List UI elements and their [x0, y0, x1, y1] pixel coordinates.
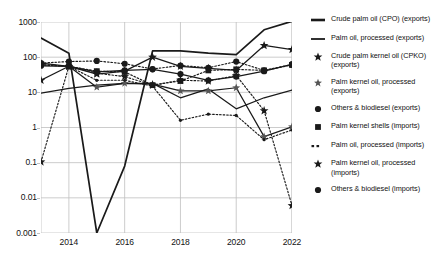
- data-point: [41, 76, 45, 84]
- legend-marker-circle-icon: [310, 185, 326, 195]
- data-point: [207, 113, 210, 116]
- x-tick-label: 2018: [171, 238, 190, 247]
- x-tick-label: 2022: [283, 238, 302, 247]
- data-point: [123, 79, 126, 82]
- legend-marker-dotted-dashes-icon: [310, 141, 326, 151]
- data-point: [149, 66, 155, 72]
- legend-label: Palm oil, processed (exports): [331, 33, 424, 42]
- data-point: [122, 61, 128, 67]
- y-tick-label: 0.1: [25, 158, 37, 167]
- data-point: [177, 62, 183, 68]
- legend-marker-line-thick-icon: [310, 15, 326, 25]
- y-tick-mark: [37, 57, 40, 58]
- legend-item[interactable]: Palm oil, processed (imports): [310, 140, 438, 151]
- chart-canvas: [41, 22, 292, 233]
- legend-item[interactable]: Palm kernel shells (imports): [310, 121, 438, 132]
- data-point: [94, 58, 100, 64]
- data-point: [204, 87, 212, 95]
- legend-label: Palm kernel oil, processed (exports): [331, 77, 438, 95]
- legend-item[interactable]: Others & biodiesel (imports): [310, 184, 438, 195]
- series-5: [41, 62, 292, 88]
- series-7: [41, 62, 292, 210]
- data-point: [263, 138, 266, 141]
- data-point: [148, 53, 157, 61]
- legend-label: Crude palm kernel oil (CPKO) (exports): [331, 51, 438, 69]
- data-point: [95, 79, 98, 82]
- legend-marker-star-bold-icon: [310, 159, 326, 169]
- legend-item[interactable]: Crude palm oil (CPO) (exports): [310, 14, 438, 25]
- data-point: [93, 83, 101, 91]
- legend-label: Palm kernel oil, processed (imports): [331, 158, 438, 176]
- data-point: [235, 114, 238, 117]
- y-tick-mark: [37, 92, 40, 93]
- y-tick-mark: [37, 22, 40, 23]
- legend-label: Palm kernel shells (imports): [331, 121, 420, 130]
- series-2: [41, 41, 292, 84]
- x-axis: 20142016201820202022: [0, 238, 439, 254]
- data-point: [260, 106, 269, 114]
- legend-item[interactable]: Crude palm kernel oil (CPKO) (exports): [310, 51, 438, 69]
- x-tick-label: 2020: [227, 238, 246, 247]
- y-tick-mark: [37, 233, 40, 234]
- legend-label: Palm oil, processed (imports): [331, 140, 424, 149]
- legend-item[interactable]: Palm kernel oil, processed (exports): [310, 77, 438, 95]
- y-axis: 10001001010.10.010.001: [0, 0, 37, 262]
- series-8: [41, 63, 292, 141]
- legend-marker-star-light-icon: [310, 78, 326, 88]
- y-tick-label: 100: [23, 53, 37, 62]
- y-tick-label: 1000: [18, 18, 37, 27]
- data-point: [261, 67, 267, 73]
- data-point: [151, 85, 154, 88]
- legend-item[interactable]: Palm oil, processed (exports): [310, 33, 438, 44]
- legend-label: Others & biodiesel (imports): [331, 184, 420, 193]
- y-tick-label: 0.01: [21, 193, 37, 202]
- data-point: [179, 119, 182, 122]
- x-tick-label: 2014: [60, 238, 79, 247]
- legend-marker-square-icon: [310, 122, 326, 132]
- y-tick-mark: [37, 128, 40, 129]
- data-point: [233, 58, 239, 64]
- legend-marker-circle-icon: [310, 104, 326, 114]
- data-point: [67, 65, 70, 68]
- y-tick-label: 0.001: [16, 229, 37, 238]
- legend-label: Crude palm oil (CPO) (exports): [331, 14, 430, 23]
- y-tick-label: 10: [28, 88, 37, 97]
- legend-marker-line-thin-icon: [310, 34, 326, 44]
- plot-area: [41, 22, 292, 233]
- chart-legend: Crude palm oil (CPO) (exports)Palm oil, …: [310, 14, 438, 203]
- legend-item[interactable]: Palm kernel oil, processed (imports): [310, 158, 438, 176]
- y-tick-mark: [37, 198, 40, 199]
- series-4: [41, 61, 292, 83]
- data-point: [204, 76, 213, 84]
- x-tick-label: 2016: [115, 238, 134, 247]
- y-tick-mark: [37, 163, 40, 164]
- legend-item[interactable]: Others & biodiesel (exports): [310, 103, 438, 114]
- data-point: [205, 65, 211, 71]
- legend-marker-star-bold-icon: [310, 52, 326, 62]
- legend-label: Others & biodiesel (exports): [331, 103, 420, 112]
- chart-figure: 10001001010.10.010.001 20142016201820202…: [0, 0, 439, 262]
